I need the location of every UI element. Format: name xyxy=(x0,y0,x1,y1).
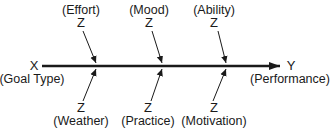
moderator-motivation-symbol: Z xyxy=(210,101,218,115)
moderator-practice-label: (Practice) xyxy=(121,114,174,128)
effort-arrow xyxy=(83,31,96,63)
practice-arrow xyxy=(151,69,162,101)
moderator-motivation-label: (Motivation) xyxy=(181,114,246,128)
moderator-weather-label: (Weather) xyxy=(53,114,108,128)
moderator-practice-symbol: Z xyxy=(144,101,152,115)
target-symbol: Y xyxy=(287,59,296,73)
moderator-weather-symbol: Z xyxy=(77,101,85,115)
motivation-arrow xyxy=(213,69,226,101)
target-label: (Performance) xyxy=(250,72,330,86)
moderator-ability-symbol: Z xyxy=(210,16,218,30)
moderator-mood-symbol: Z xyxy=(145,16,153,30)
mood-arrow xyxy=(152,31,162,63)
ability-arrow xyxy=(218,31,226,63)
source-symbol: X xyxy=(30,59,39,73)
moderator-effort-symbol: Z xyxy=(77,16,85,30)
weather-arrow xyxy=(83,69,96,101)
source-label: (Goal Type) xyxy=(0,72,65,86)
